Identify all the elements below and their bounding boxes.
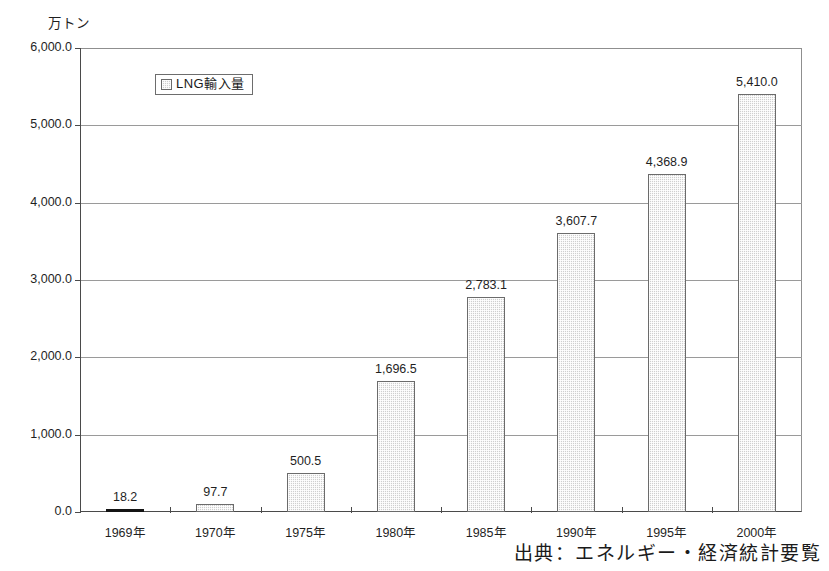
gridline xyxy=(80,357,802,358)
bar xyxy=(557,233,595,512)
y-axis-tick-label: 1,000.0 xyxy=(0,427,72,441)
y-axis-tick-mark xyxy=(75,357,81,358)
bar xyxy=(287,473,325,512)
x-axis-tick-mark xyxy=(441,507,442,513)
chart-page: 万トン 0.01,000.02,000.03,000.04,000.05,000… xyxy=(0,0,829,571)
bar-value-label: 1,696.5 xyxy=(351,362,441,376)
y-axis-tick-label: 4,000.0 xyxy=(0,195,72,209)
bar xyxy=(106,509,144,512)
y-axis-tick-label: 3,000.0 xyxy=(0,272,72,286)
source-note: 出典：エネルギー・経済統計要覧 xyxy=(514,538,822,565)
bar-value-label: 18.2 xyxy=(80,490,170,504)
x-axis-tick-label: 1970年 xyxy=(170,522,260,541)
bar xyxy=(467,297,505,512)
bar-value-label: 4,368.9 xyxy=(622,155,712,169)
y-axis-tick-label: 6,000.0 xyxy=(0,40,72,54)
x-axis-tick-mark xyxy=(531,507,532,513)
gridline xyxy=(80,125,802,126)
x-axis-tick-label: 1975年 xyxy=(261,522,351,541)
y-axis-tick-label: 2,000.0 xyxy=(0,349,72,363)
bar-value-label: 3,607.7 xyxy=(531,214,621,228)
gridline xyxy=(80,435,802,436)
bar-value-label: 2,783.1 xyxy=(441,278,531,292)
y-axis-tick-mark xyxy=(75,48,81,49)
x-axis-tick-mark xyxy=(261,507,262,513)
x-axis-tick-label: 1969年 xyxy=(80,522,170,541)
y-axis-tick-mark xyxy=(75,512,81,513)
y-axis-tick-mark xyxy=(75,203,81,204)
x-axis-tick-label: 1980年 xyxy=(351,522,441,541)
bar xyxy=(196,504,234,512)
y-axis-tick-mark xyxy=(75,280,81,281)
y-axis-unit-caption: 万トン xyxy=(48,12,90,32)
y-axis-tick-mark xyxy=(75,435,81,436)
x-axis-tick-mark xyxy=(712,507,713,513)
bar xyxy=(377,381,415,512)
legend-label: LNG輸入量 xyxy=(176,77,245,91)
gridline xyxy=(80,203,802,204)
bar-value-label: 500.5 xyxy=(261,454,351,468)
y-axis-tick-label: 0.0 xyxy=(0,504,72,518)
bar xyxy=(738,94,776,512)
y-axis-tick-label: 5,000.0 xyxy=(0,117,72,131)
bar-value-label: 97.7 xyxy=(170,485,260,499)
bar xyxy=(648,174,686,512)
x-axis-tick-mark xyxy=(351,507,352,513)
x-axis-tick-mark xyxy=(170,507,171,513)
x-axis-tick-mark xyxy=(622,507,623,513)
y-axis-tick-mark xyxy=(75,125,81,126)
legend: LNG輸入量 xyxy=(155,74,253,95)
legend-swatch-icon xyxy=(161,79,172,90)
bar-value-label: 5,410.0 xyxy=(712,75,802,89)
